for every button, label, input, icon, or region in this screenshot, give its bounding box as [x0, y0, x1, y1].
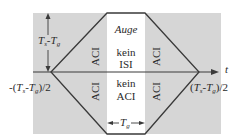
time-axis-label: t [225, 64, 228, 75]
height-label: Ts-Tg [37, 35, 61, 50]
right-tick-label: (Ts-Tg)/2 [190, 82, 228, 97]
aci-label-lower-right: ACI [151, 82, 162, 101]
aci-label-upper-left: ACI [90, 47, 101, 66]
aci-label-lower-left: ACI [90, 82, 101, 101]
aci-label-upper-right: ACI [151, 47, 162, 66]
no-aci-line2: ACI [107, 91, 145, 102]
no-aci-line1: kein [107, 78, 145, 89]
width-label: Tg [119, 117, 131, 132]
eye-title: Auge [107, 24, 145, 35]
left-tick-label: -(Ts-Tg)/2 [9, 82, 51, 97]
no-isi-line2: ISI [107, 59, 145, 70]
no-isi-line1: kein [107, 47, 145, 58]
